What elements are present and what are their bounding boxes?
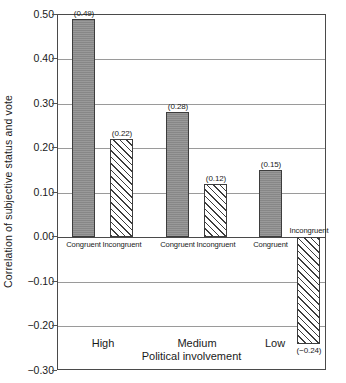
- y-tick-label: 0.00: [18, 231, 54, 241]
- y-tick-mark: [52, 370, 57, 371]
- gridline-zero: [58, 237, 325, 238]
- group-label-high: High: [72, 337, 134, 350]
- bar-low-congruent[interactable]: [259, 170, 282, 237]
- y-tick-label: 0.20: [18, 142, 54, 152]
- group-label-low: Low: [252, 337, 298, 350]
- bar-low-incongruent[interactable]: [297, 237, 320, 344]
- bar-high-incongruent[interactable]: [110, 139, 133, 237]
- y-tick-label: 0.10: [18, 187, 54, 197]
- y-tick-label: 0.40: [18, 53, 54, 63]
- bar-high-congruent[interactable]: [72, 19, 95, 237]
- gridline--0.20: [58, 326, 325, 327]
- gridline-0.40: [58, 59, 325, 60]
- value-label-low-congruent: (0.15): [251, 160, 291, 169]
- value-label-high-congruent: (0.49): [64, 9, 104, 18]
- group-label-medium: Medium: [161, 337, 233, 350]
- y-tick-label: −0.20: [18, 320, 54, 330]
- y-tick-label: −0.30: [18, 365, 54, 375]
- series-label-low-incongruent: Incongruent: [285, 226, 333, 235]
- value-label-medium-congruent: (0.28): [158, 102, 198, 111]
- x-axis-title: Political involvement: [57, 350, 326, 363]
- y-tick-label: 0.50: [18, 9, 54, 19]
- series-label-medium-incongruent: Incongruent: [192, 240, 240, 249]
- plot-area: (0.49) (0.22) (0.28) (0.12) (0.15) (−0.2…: [57, 14, 326, 370]
- bar-medium-incongruent[interactable]: [204, 184, 227, 237]
- value-label-medium-incongruent: (0.12): [196, 174, 236, 183]
- y-axis-tick-labels: 0.50 0.40 0.30 0.20 0.10 0.00 −0.10 −0.2…: [14, 0, 54, 383]
- series-label-low-congruent: Congruent: [245, 240, 296, 249]
- gridline-0.10: [58, 193, 325, 194]
- gridline--0.10: [58, 282, 325, 283]
- value-label-high-incongruent: (0.22): [102, 129, 142, 138]
- chart-figure: Correlation of subjective status and vot…: [0, 0, 346, 383]
- y-tick-label: −0.10: [18, 276, 54, 286]
- gridline-0.20: [58, 148, 325, 149]
- series-label-high-incongruent: Incongruent: [98, 240, 146, 249]
- bar-medium-congruent[interactable]: [166, 112, 189, 237]
- y-tick-label: 0.30: [18, 98, 54, 108]
